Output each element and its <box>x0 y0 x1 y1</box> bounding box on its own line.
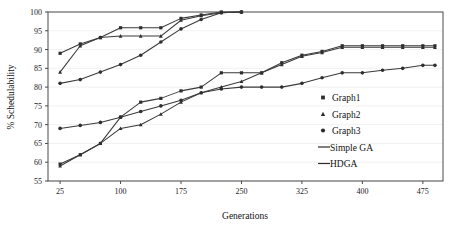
series-path <box>60 65 435 128</box>
data-point-square <box>159 97 162 100</box>
data-point-circle <box>280 85 284 89</box>
legend-item-hdga[interactable]: HDGA <box>318 159 358 169</box>
data-point-circle <box>179 27 183 31</box>
y-axis-ticks: 556065707580859095100 <box>30 8 48 186</box>
data-point-circle <box>433 64 437 68</box>
series-hdga-graph3 <box>58 10 243 85</box>
chart-canvas: 556065707580859095100 251001752503254004… <box>0 0 472 229</box>
data-point-circle <box>321 128 325 132</box>
data-point-circle <box>199 91 203 95</box>
x-tick-label: 25 <box>56 187 64 196</box>
y-tick-label: 55 <box>34 177 42 186</box>
data-point-circle <box>220 87 224 91</box>
series-path <box>60 46 435 164</box>
legend-label: Simple GA <box>330 143 373 153</box>
data-point-circle <box>199 18 203 22</box>
x-axis-title: Generations <box>222 211 268 221</box>
data-point-square <box>321 96 325 100</box>
legend-label: HDGA <box>330 159 358 169</box>
data-point-circle <box>220 11 224 15</box>
data-point-circle <box>99 121 103 125</box>
data-point-square <box>220 71 223 74</box>
chart-legend: Graph1Graph2Graph3Simple GAHDGA <box>318 93 373 169</box>
data-point-circle <box>78 124 82 128</box>
y-tick-label: 85 <box>34 64 42 73</box>
x-tick-label: 325 <box>296 187 308 196</box>
series-simple-ga-graph3 <box>58 64 436 131</box>
x-tick-label: 400 <box>356 187 368 196</box>
y-tick-label: 65 <box>34 139 42 148</box>
data-point-circle <box>159 40 163 44</box>
data-point-circle <box>78 78 82 82</box>
data-point-square <box>58 52 61 55</box>
x-tick-label: 475 <box>417 187 429 196</box>
series-path <box>60 47 435 166</box>
legend-item-simple-ga[interactable]: Simple GA <box>318 143 373 153</box>
data-point-square <box>240 71 243 74</box>
data-point-circle <box>340 71 344 75</box>
y-tick-label: 80 <box>34 83 42 92</box>
data-point-circle <box>159 104 163 108</box>
legend-item-graph2[interactable]: Graph2 <box>321 110 361 120</box>
data-point-circle <box>381 68 385 72</box>
x-tick-label: 100 <box>115 187 127 196</box>
data-point-circle <box>58 82 62 86</box>
y-tick-label: 100 <box>30 8 42 17</box>
data-point-circle <box>361 71 365 75</box>
y-tick-label: 60 <box>34 158 42 167</box>
series-simple-ga-graph1 <box>58 44 436 166</box>
chart-figure: 556065707580859095100 251001752503254004… <box>0 0 472 229</box>
legend-label: Graph1 <box>332 93 361 103</box>
data-point-circle <box>179 98 183 102</box>
data-point-circle <box>300 82 304 86</box>
data-series-group <box>58 10 437 168</box>
x-tick-label: 250 <box>235 187 247 196</box>
y-tick-label: 70 <box>34 121 42 130</box>
data-point-circle <box>260 85 264 89</box>
series-path <box>60 12 241 83</box>
y-tick-label: 95 <box>34 27 42 36</box>
series-path <box>60 12 241 53</box>
data-point-circle <box>139 110 143 114</box>
data-point-square <box>139 101 142 104</box>
data-point-circle <box>58 127 62 131</box>
data-point-square <box>200 86 203 89</box>
data-point-circle <box>401 67 405 71</box>
legend-item-graph3[interactable]: Graph3 <box>321 126 361 136</box>
data-point-circle <box>240 10 244 14</box>
y-axis-title: % Schedulability <box>6 64 16 129</box>
data-point-circle <box>139 53 143 57</box>
x-tick-label: 175 <box>175 187 187 196</box>
legend-label: Graph2 <box>332 110 361 120</box>
data-point-square <box>119 26 122 29</box>
legend-label: Graph3 <box>332 126 361 136</box>
y-tick-label: 90 <box>34 46 42 55</box>
data-point-circle <box>99 70 103 74</box>
data-point-square <box>159 26 162 29</box>
data-point-circle <box>119 115 123 119</box>
data-point-circle <box>119 63 123 67</box>
y-tick-label: 75 <box>34 102 42 111</box>
data-point-circle <box>320 76 324 80</box>
data-point-circle <box>240 85 244 89</box>
x-axis-ticks: 25100175250325400475 <box>56 181 429 196</box>
data-point-circle <box>421 64 425 68</box>
data-point-square <box>179 89 182 92</box>
legend-item-graph1[interactable]: Graph1 <box>321 93 361 103</box>
data-point-square <box>139 26 142 29</box>
series-simple-ga-graph2 <box>58 45 437 167</box>
data-point-triangle <box>321 112 325 116</box>
